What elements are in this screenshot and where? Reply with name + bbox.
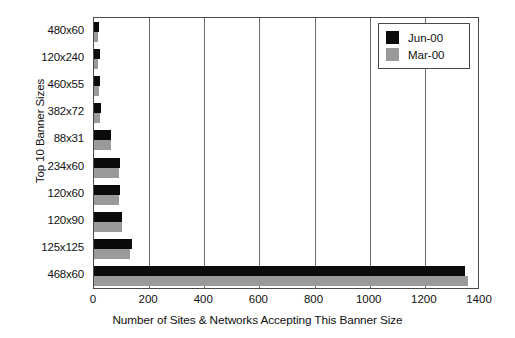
bar-group: [94, 181, 478, 208]
legend-swatch-icon-mar: [386, 48, 399, 61]
bar-jun-00: [94, 130, 111, 140]
bar-group: [94, 127, 478, 154]
bar-jun-00: [94, 212, 122, 222]
bar-jun-00: [94, 49, 100, 59]
bar-group: [94, 208, 478, 235]
legend-item-jun: Jun-00: [386, 29, 462, 46]
bar-jun-00: [94, 76, 100, 86]
bar-mar-00: [94, 195, 119, 205]
bar-group: [94, 100, 478, 127]
x-axis-tick-label: 1400: [466, 293, 492, 305]
bar-jun-00: [94, 185, 120, 195]
legend-item-mar: Mar-00: [386, 46, 462, 63]
x-axis-tick-label: 200: [139, 293, 158, 305]
x-axis-tick-label: 600: [249, 293, 268, 305]
x-axis-tick-label: 400: [194, 293, 213, 305]
y-axis-tick-label: 88x31: [54, 132, 84, 144]
bar-mar-00: [94, 168, 119, 178]
x-axis-tick-label: 1200: [411, 293, 437, 305]
y-axis-tick-label: 125x125: [41, 241, 84, 253]
bar-mar-00: [94, 276, 468, 286]
bar-chart: Top 10 Banner Sizes 480x60120x240460x553…: [0, 0, 515, 338]
y-axis-tick-label: 460x55: [47, 78, 84, 90]
bar-group: [94, 236, 478, 263]
bar-jun-00: [94, 22, 99, 32]
legend-label-mar: Mar-00: [408, 49, 444, 61]
bar-mar-00: [94, 86, 99, 96]
x-axis-tick-label: 1000: [356, 293, 382, 305]
bar-mar-00: [94, 222, 122, 232]
bar-mar-00: [94, 249, 130, 259]
bar-mar-00: [94, 32, 98, 42]
bar-mar-00: [94, 140, 111, 150]
bar-group: [94, 263, 478, 289]
legend-swatch-icon-jun: [386, 31, 399, 44]
bar-group: [94, 154, 478, 181]
y-axis-tick-label: 382x72: [47, 105, 84, 117]
y-axis-tick-label: 120x90: [47, 214, 84, 226]
bar-group: [94, 72, 478, 99]
x-axis-tick-label: 0: [90, 293, 96, 305]
x-axis-title: Number of Sites & Networks Accepting Thi…: [0, 313, 515, 327]
y-axis-tick-label: 120x60: [47, 187, 84, 199]
y-axis-tick-label: 480x60: [47, 24, 84, 36]
bar-mar-00: [94, 59, 98, 69]
bar-jun-00: [94, 266, 465, 276]
bar-jun-00: [94, 103, 101, 113]
bar-jun-00: [94, 239, 132, 249]
x-axis-tick-labels: 0200400600800100012001400: [0, 293, 515, 309]
bar-jun-00: [94, 158, 120, 168]
y-axis-tick-labels: 480x60120x240460x55382x7288x31234x60120x…: [0, 17, 88, 289]
y-axis-tick-label: 468x60: [47, 268, 84, 280]
legend-label-jun: Jun-00: [408, 32, 443, 44]
y-axis-tick-label: 120x240: [41, 51, 84, 63]
legend: Jun-00 Mar-00: [378, 23, 470, 69]
bar-mar-00: [94, 113, 100, 123]
y-axis-tick-label: 234x60: [47, 160, 84, 172]
x-axis-tick-label: 800: [304, 293, 323, 305]
